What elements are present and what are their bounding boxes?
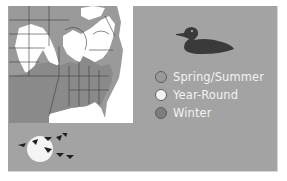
map-graphic [9, 6, 133, 123]
flying-birds-moon-icon [18, 133, 84, 167]
legend-item-winter: Winter [155, 104, 264, 121]
legend-label: Year-Round [173, 88, 238, 102]
range-map [9, 6, 133, 123]
swatch-year-round [155, 89, 167, 101]
legend-label: Winter [173, 106, 212, 120]
legend-label: Spring/Summer [173, 70, 264, 84]
swatch-spring-summer [155, 71, 167, 83]
duck-icon [172, 26, 236, 56]
legend-item-year-round: Year-Round [155, 86, 264, 103]
swatch-winter [155, 107, 167, 119]
legend-item-spring-summer: Spring/Summer [155, 68, 264, 85]
legend: Spring/Summer Year-Round Winter [155, 68, 264, 122]
